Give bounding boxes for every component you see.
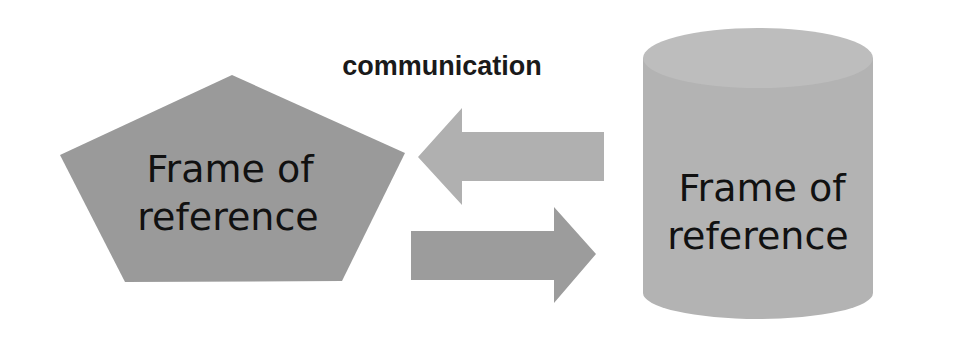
pentagon-frame-of-reference: Frame of reference — [60, 75, 405, 282]
communication-title: communication — [342, 51, 542, 81]
pentagon-label-line2: reference — [137, 195, 318, 239]
cylinder-label-line1: Frame of — [678, 166, 847, 210]
diagram-canvas: communication Frame of reference Frame o… — [0, 0, 963, 345]
cylinder-frame-of-reference: Frame of reference — [643, 28, 873, 319]
pentagon-label-line1: Frame of — [146, 147, 315, 191]
arrow-right-icon — [411, 207, 596, 303]
cylinder-top — [643, 28, 873, 88]
cylinder-label-line2: reference — [667, 214, 848, 258]
arrow-left-icon — [418, 108, 604, 205]
